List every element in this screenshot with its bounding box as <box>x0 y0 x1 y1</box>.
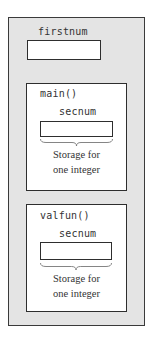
main-brace-icon <box>40 139 113 147</box>
main-local-variable-storage-cell <box>40 121 113 137</box>
global-variable-storage-cell <box>27 40 101 60</box>
main-caption-line1: Storage for <box>26 148 127 162</box>
valfun-caption-line2: one integer <box>26 287 127 301</box>
valfun-caption-line1: Storage for <box>26 272 127 286</box>
global-variable-label: firstnum <box>38 26 88 37</box>
main-local-variable-label: secnum <box>59 106 96 117</box>
valfun-function-label: valfun() <box>40 210 90 221</box>
main-caption-line2: one integer <box>26 163 127 177</box>
valfun-local-variable-storage-cell <box>40 242 112 260</box>
main-function-label: main() <box>40 88 77 99</box>
valfun-local-variable-label: secnum <box>59 228 96 239</box>
valfun-brace-icon <box>40 263 112 271</box>
